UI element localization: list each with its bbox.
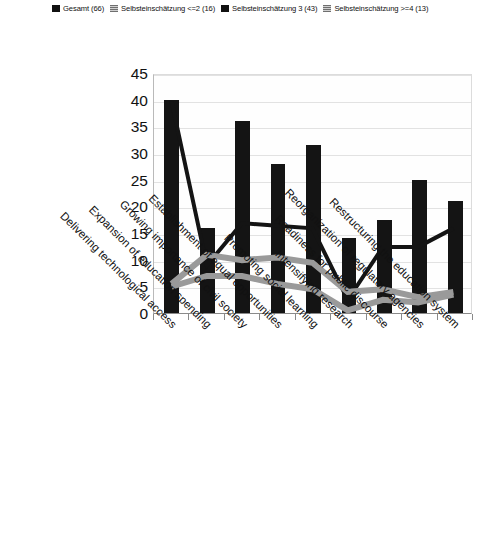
category-labels: Delivering technological accessExpansion… <box>0 322 489 522</box>
x-tick <box>153 314 154 320</box>
plot-wrapper: 454035302520151050 Delivering technologi… <box>0 0 489 548</box>
line-series <box>172 101 454 299</box>
y-tick-label: 25 <box>131 173 148 189</box>
y-tick-label: 0 <box>139 306 148 322</box>
x-tick <box>472 314 473 320</box>
x-tick <box>224 314 225 320</box>
y-tick-label: 40 <box>131 93 148 109</box>
y-tick-label: 30 <box>131 146 148 162</box>
x-tick <box>295 314 296 320</box>
y-tick-label: 35 <box>131 120 148 136</box>
y-tick-label: 45 <box>131 66 148 82</box>
chart-root: Gesamt (66) Selbsteinschätzung <=2 (16) … <box>0 0 489 548</box>
